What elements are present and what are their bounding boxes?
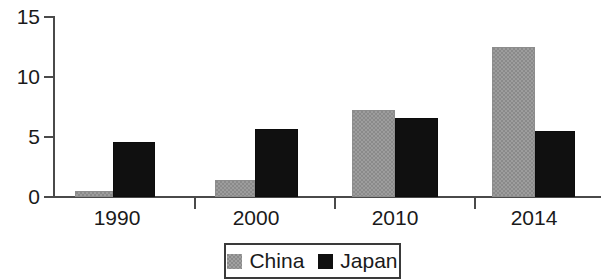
bar-china-2000: [215, 180, 255, 197]
chart-legend: China Japan: [224, 243, 401, 279]
x-tick-label-2010: 2010: [350, 206, 440, 230]
x-tick-mark-2: [334, 198, 336, 209]
legend-label-china: China: [249, 250, 304, 272]
legend-item-china: China: [227, 250, 304, 272]
y-tick-5: 5: [0, 126, 40, 148]
legend-label-japan: Japan: [340, 250, 397, 272]
x-tick-mark-3: [474, 198, 476, 209]
bar-japan-2014: [535, 131, 575, 197]
black-swatch-icon: [318, 254, 333, 269]
x-tick-label-2000: 2000: [211, 206, 301, 230]
x-tick-mark-1: [194, 198, 196, 209]
y-tick-label-5: 5: [0, 126, 40, 147]
gray-swatch-icon: [227, 254, 242, 269]
y-tick-label-10: 10: [0, 66, 40, 87]
bar-china-2010: [352, 110, 395, 197]
plot-area: [53, 17, 601, 197]
x-tick-label-1990: 1990: [72, 206, 162, 230]
y-tick-0: 0: [0, 186, 40, 208]
bar-japan-2000: [255, 129, 298, 197]
y-tick-15: 15: [0, 6, 40, 28]
bar-japan-1990: [113, 142, 155, 197]
bar-china-1990: [75, 191, 113, 197]
bar-china-2014: [492, 47, 535, 197]
y-tick-label-15: 15: [0, 6, 40, 27]
x-tick-label-2014: 2014: [489, 206, 579, 230]
y-tick-label-0: 0: [0, 186, 40, 207]
y-tick-10: 10: [0, 66, 40, 88]
legend-item-japan: Japan: [318, 250, 397, 272]
bar-japan-2010: [395, 118, 438, 197]
